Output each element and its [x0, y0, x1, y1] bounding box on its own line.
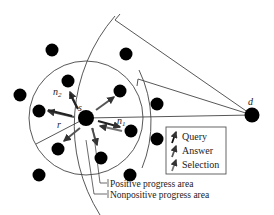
legend: Query Answer Selection: [166, 127, 226, 174]
legend-answer: Answer: [182, 145, 214, 156]
radius-label: r: [57, 119, 61, 130]
sector-line-upper: [115, 20, 252, 115]
legend-selection: Selection: [182, 159, 219, 170]
d-label: d: [248, 96, 254, 107]
node: [33, 105, 46, 118]
node: [120, 48, 133, 61]
nonpositive-area-leader: [86, 140, 107, 194]
radius-line: [36, 118, 86, 144]
node: [46, 44, 59, 57]
node: [151, 98, 164, 111]
n2-label: n2: [53, 86, 62, 99]
sector-line-lower-tick: [137, 79, 138, 86]
nonpositive-progress-label: Nonpositive progress area: [110, 190, 210, 200]
positive-progress-label: Positive progress area: [110, 179, 194, 189]
legend-query: Query: [182, 131, 207, 142]
node: [52, 143, 65, 156]
node-n2: [62, 75, 75, 88]
nonpositive-progress-arc: [139, 70, 151, 168]
node-d: [245, 108, 260, 123]
routing-diagram: n2 s n1 r d Query Answer Selection Posit…: [0, 0, 274, 215]
node: [14, 89, 27, 102]
sector-line-upper-tick: [115, 14, 120, 20]
node: [95, 152, 108, 165]
node: [33, 169, 46, 182]
node: [114, 85, 127, 98]
node-n1: [125, 125, 138, 138]
s-to-d-line: [86, 115, 252, 118]
s-label: s: [78, 102, 82, 113]
node: [151, 133, 164, 146]
